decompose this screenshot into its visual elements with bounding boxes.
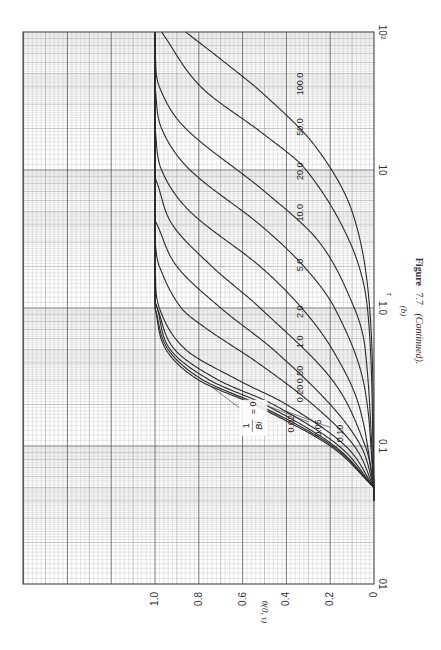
theta-tick-label: 1.0	[149, 592, 160, 606]
curve-label-0p20: 0.20	[295, 385, 305, 403]
tau-axis-title: τ	[385, 292, 395, 296]
legend-eq: = 0	[248, 401, 258, 414]
tau-tick-label: 10	[377, 164, 388, 176]
curve-label-5p0: 5.0	[295, 259, 305, 272]
svg-text:100.0: 100.0	[295, 73, 305, 96]
theta-tick-label: 0.4	[280, 592, 291, 606]
plot-area: 0.200.501.02.05.010.020.050.0100.00.100.…	[23, 32, 374, 584]
figure-caption: Figure 7.7 (Continued).	[413, 258, 425, 364]
caption-suffix: (Continued).	[413, 313, 425, 364]
tau-tick-label: 1.0	[377, 301, 388, 315]
panel-label: (b)	[399, 306, 409, 317]
tau-tick-label: 10²	[377, 25, 388, 40]
tau-tick-label: 0.1	[377, 439, 388, 453]
svg-text:0.50: 0.50	[295, 366, 305, 384]
caption-number: 7.7	[414, 292, 425, 305]
chart-figure: 0.200.501.02.05.010.020.050.0100.00.100.…	[0, 0, 441, 650]
tau-tick-labels: 010.11.01010²	[377, 25, 388, 590]
curve-label-1p0: 1.0	[295, 335, 305, 348]
curve-label-50p0: 50.0	[295, 118, 305, 136]
svg-text:20.0: 20.0	[295, 162, 305, 180]
curve-label-0p02: 0.02	[286, 415, 296, 433]
theta-tick-label: 0.6	[237, 592, 248, 606]
svg-text:2.0: 2.0	[295, 305, 305, 318]
curve-label-0p05: 0.05	[313, 419, 323, 437]
svg-text:5.0: 5.0	[295, 259, 305, 272]
curve-label-2p0: 2.0	[295, 305, 305, 318]
legend-den: Bi	[254, 421, 264, 430]
theta-tick-label: 0.8	[193, 592, 204, 606]
curve-label-0p10: 0.10	[335, 425, 345, 443]
theta-axis-title: θ(0, τ)	[260, 601, 270, 624]
curve-label-10p0: 10.0	[295, 204, 305, 222]
legend-num: 1	[241, 423, 251, 428]
svg-text:1.0: 1.0	[295, 335, 305, 348]
curve-label-100p0: 100.0	[295, 73, 305, 96]
curve-label-0p50: 0.50	[295, 366, 305, 384]
svg-text:Figure 7.7 (Contin: Figure 7.7 (Continued).	[413, 258, 425, 364]
svg-text:0.20: 0.20	[295, 385, 305, 403]
tau-tick-label: 01	[377, 578, 388, 590]
theta-tick-label: 0	[368, 592, 379, 598]
theta-tick-label: 0.2	[324, 592, 335, 606]
curve-label-20p0: 20.0	[295, 162, 305, 180]
curve-labels: 0.200.501.02.05.010.020.050.0100.00.100.…	[211, 73, 345, 443]
svg-text:10.0: 10.0	[295, 204, 305, 222]
svg-text:50.0: 50.0	[295, 118, 305, 136]
caption-prefix: Figure	[414, 258, 425, 287]
grid	[23, 32, 374, 584]
